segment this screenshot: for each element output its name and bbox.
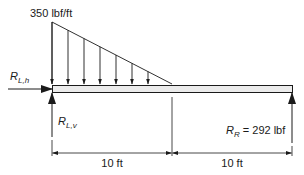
left-vertical-reaction-label: RL,v (58, 115, 78, 130)
beam (53, 86, 293, 93)
dimension-left-span-label: 10 ft (101, 157, 122, 169)
right-reaction-label: RR = 292 lbf (226, 124, 286, 139)
distributed-load (52, 22, 172, 84)
left-horizontal-reaction-label: RL,h (10, 70, 30, 85)
dimension-right-span-label: 10 ft (221, 157, 242, 169)
load-triangle-outline (52, 22, 172, 84)
beam-diagram: 350 lbf/ft RL,h RL,v RR = 292 lbf 10 ft (0, 0, 304, 175)
load-magnitude-label: 350 lbf/ft (30, 7, 72, 19)
